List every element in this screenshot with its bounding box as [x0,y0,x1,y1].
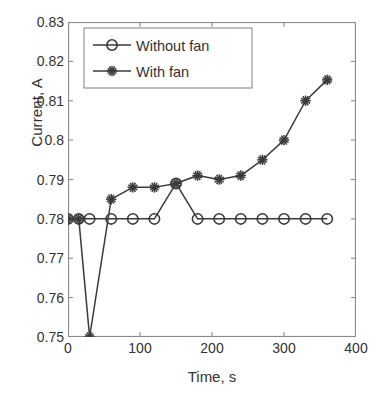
plot-svg: Without fanWith fan [68,22,356,337]
x-tick-label: 0 [64,340,72,356]
legend: Without fanWith fan [84,28,252,88]
y-tick-label: 0.76 [18,290,64,306]
x-tick-label: 300 [272,340,295,356]
x-tick-label: 400 [344,340,367,356]
y-tick-label: 0.82 [18,53,64,69]
y-tick-label: 0.83 [18,14,64,30]
y-tick-label: 0.8 [18,132,64,148]
y-tick-label: 0.78 [18,211,64,227]
plot-area: Without fanWith fan [68,22,356,337]
y-tick-label: 0.81 [18,93,64,109]
y-axis-tick-labels: 0.750.760.770.780.790.80.810.820.83 [14,22,64,337]
y-tick-label: 0.77 [18,250,64,266]
x-tick-label: 100 [128,340,151,356]
x-axis-tick-labels: 0100200300400 [68,340,356,362]
series-with-fan [68,75,332,337]
legend-label: Without fan [136,38,209,54]
current-vs-time-chart: Current, A Time, s 0.750.760.770.780.790… [0,0,387,394]
series-line [68,80,327,337]
y-tick-label: 0.75 [18,329,64,345]
legend-label: With fan [136,64,189,80]
x-tick-label: 200 [200,340,223,356]
x-axis-label: Time, s [68,368,356,385]
y-tick-label: 0.79 [18,172,64,188]
